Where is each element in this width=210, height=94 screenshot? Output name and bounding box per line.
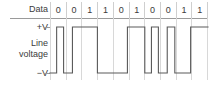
data-bit-row: 0011010011 bbox=[50, 2, 208, 18]
voltage-high-label: +V bbox=[2, 22, 48, 32]
data-bit-cell: 1 bbox=[97, 2, 113, 18]
line-voltage-figure: Data 0011010011 +V Line voltage −V bbox=[0, 0, 210, 94]
data-bit-cell: 1 bbox=[81, 2, 97, 18]
line-voltage-waveform bbox=[50, 18, 208, 80]
waveform-polyline bbox=[50, 27, 208, 73]
data-bit-cell: 0 bbox=[144, 2, 160, 18]
data-bit-cell: 1 bbox=[176, 2, 192, 18]
signal-axis-label-line2: voltage bbox=[2, 49, 48, 60]
signal-axis-label: Line voltage bbox=[2, 38, 48, 60]
data-bit-cell: 1 bbox=[191, 2, 208, 18]
signal-axis-label-line1: Line bbox=[2, 38, 48, 49]
data-row-label: Data bbox=[2, 4, 48, 14]
data-bit-cell: 0 bbox=[66, 2, 82, 18]
waveform-plot bbox=[50, 18, 208, 80]
data-bit-cell: 0 bbox=[113, 2, 129, 18]
voltage-low-label: −V bbox=[2, 68, 48, 78]
data-bit-cell: 0 bbox=[160, 2, 176, 18]
data-bit-cell: 0 bbox=[50, 2, 66, 18]
data-bit-cell: 1 bbox=[129, 2, 145, 18]
